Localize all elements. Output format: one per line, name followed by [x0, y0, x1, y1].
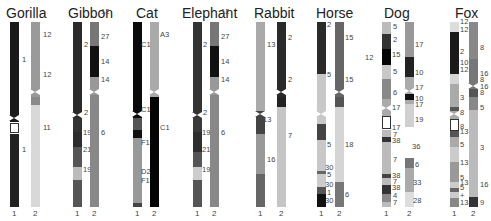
band-label: 17: [392, 104, 400, 112]
chromosome-band: [193, 152, 202, 167]
chromosome-band: [469, 110, 478, 197]
chromosome-band: [335, 107, 344, 182]
band-label: 12: [460, 66, 468, 74]
chromosome-rabbit-2: [277, 22, 286, 207]
chromosome-band: [450, 32, 459, 74]
chromosome-band: [469, 97, 478, 110]
band-label: 13: [267, 41, 275, 49]
band-label: 14: [221, 58, 229, 66]
chromosome-band: [210, 46, 219, 77]
chromosome-band: [382, 142, 391, 174]
centromere-marker: [9, 115, 20, 121]
chromosome-band: [382, 65, 391, 79]
chromosome-band: [256, 174, 265, 207]
chromosome-elephant-2: [210, 22, 219, 207]
band-label: 5: [327, 171, 331, 179]
band-label: 18: [345, 141, 353, 149]
band-label: 17: [415, 101, 423, 109]
chromosome-band: [450, 137, 459, 147]
chromosome-horse-2: [335, 22, 344, 207]
band-label: 13: [460, 159, 468, 167]
chromosome-band: [405, 104, 414, 127]
chromosome-number: 1: [135, 209, 139, 218]
chromosome-band: [90, 100, 99, 207]
chromosome-band: [256, 22, 265, 113]
chromosome-band: [73, 132, 82, 147]
centromere-marker: [89, 89, 100, 95]
chromosome-number: 1: [75, 209, 79, 218]
chromosome-band: [469, 59, 478, 83]
band-label: 2: [84, 41, 88, 49]
band-label: 5: [393, 68, 397, 76]
band-label: 19: [415, 116, 423, 124]
band-label: 11: [43, 124, 51, 132]
chromosome-band: [133, 203, 142, 207]
band-label: 15: [345, 34, 353, 42]
chromosome-band: [133, 22, 142, 113]
chromosome-band: [382, 202, 391, 207]
chromosome-number: 2: [212, 209, 216, 218]
band-label: 14: [221, 76, 229, 84]
band-label: 16: [267, 156, 275, 164]
chromosome-number: 1: [258, 209, 262, 218]
chromosome-band: [469, 197, 478, 207]
chromosome-band: [450, 198, 459, 207]
chromosome-band: [450, 147, 459, 162]
chromosome-band: [317, 74, 326, 113]
chromosome-band: [335, 97, 344, 107]
chromosome-gibbon-2: [90, 22, 99, 207]
chromosome-band: [469, 88, 478, 97]
species-title: Horse: [316, 5, 353, 21]
chromosome-band: [31, 22, 40, 90]
band-label: 2: [203, 109, 207, 117]
band-label: 3: [480, 144, 484, 152]
chromosome-band: [73, 167, 82, 180]
band-label: 6: [393, 89, 397, 97]
centromere-marker: [209, 89, 220, 95]
chromosome-band: [277, 22, 286, 91]
chromosome-band: [31, 105, 40, 207]
chromosome-gibbon-1: [73, 22, 82, 207]
band-label: 2: [288, 76, 292, 84]
chromosome-band: [150, 97, 159, 207]
chromosome-band: [382, 34, 391, 49]
chromosome-band: [90, 22, 99, 46]
chromosome-number: 2: [337, 209, 341, 218]
band-label: 38: [392, 137, 400, 145]
band-label: 33: [413, 179, 421, 187]
chromosome-number: 2: [279, 209, 283, 218]
chromosome-number: 2: [471, 209, 475, 218]
chromosome-number: 1: [319, 209, 323, 218]
band-label: 14: [101, 76, 109, 84]
band-label: 13: [460, 199, 468, 207]
chromosome-band: [193, 116, 202, 132]
chromosome-band: [382, 185, 391, 194]
band-label: 7: [393, 156, 397, 164]
chromosome-band: [10, 22, 19, 117]
band-label: 12: [101, 8, 109, 16]
band-label: 2: [393, 36, 397, 44]
band-label: 5: [327, 141, 331, 149]
chromosome-elephant-1: [193, 22, 202, 207]
band-label: 6: [415, 161, 419, 169]
centromere-marker: [276, 89, 287, 95]
band-label: 15: [345, 76, 353, 84]
species-title: Gorilla: [6, 5, 46, 21]
band-label: 14: [101, 58, 109, 66]
band-label: 1: [22, 56, 26, 64]
chromosome-number: 2: [92, 209, 96, 218]
band-label: 5: [393, 23, 397, 31]
chromosome-number: 2: [407, 209, 411, 218]
band-label: 7: [393, 199, 397, 207]
band-label: 2: [288, 34, 292, 42]
band-label: 5: [327, 71, 331, 79]
chromosome-band: [73, 147, 82, 167]
species-title: Dog: [384, 5, 410, 21]
band-label: 12: [221, 8, 229, 16]
band-label: 2: [84, 109, 88, 117]
chromosome-band: [335, 22, 344, 91]
band-label: 10: [415, 69, 423, 77]
species-title: Rabbit: [254, 5, 294, 21]
band-label: F1: [141, 139, 150, 147]
chromosome-band: [73, 117, 82, 132]
